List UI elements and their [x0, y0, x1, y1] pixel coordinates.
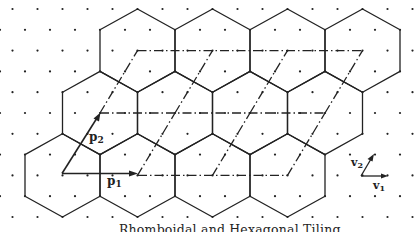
lattice-dot: [411, 216, 413, 218]
lattice-dot: [311, 174, 313, 176]
lattice-dot: [374, 112, 376, 114]
lattice-dot: [386, 8, 388, 10]
lattice-dot: [36, 216, 38, 218]
lattice-dot: [49, 70, 51, 72]
lattice-dot: [186, 216, 188, 218]
lattice-dot: [86, 8, 88, 10]
lattice-dot: [274, 112, 276, 114]
lattice-dot: [311, 50, 313, 52]
lattice-dot: [86, 174, 88, 176]
lattice-dot: [24, 29, 26, 31]
lattice-dot: [0, 112, 1, 114]
lattice-dot: [399, 154, 401, 156]
lattice-dot: [11, 133, 13, 135]
lattice-dot: [36, 174, 38, 176]
p2-label-subscript: 2: [97, 135, 103, 145]
lattice-dot: [124, 154, 126, 156]
lattice-dot: [24, 70, 26, 72]
lattice-dot: [386, 91, 388, 93]
lattice-dot: [349, 29, 351, 31]
lattice-dot: [199, 195, 201, 197]
lattice-dot: [49, 29, 51, 31]
lattice-dot: [336, 216, 338, 218]
lattice-dot: [111, 50, 113, 52]
lattice-dot: [24, 112, 26, 114]
lattice-dot: [86, 50, 88, 52]
figure-caption: Rhomboidal and Hexagonal Tiling: [119, 222, 341, 232]
lattice-dot: [11, 216, 13, 218]
lattice-dot: [0, 29, 1, 31]
lattice-dot: [36, 133, 38, 135]
lattice-dot: [374, 70, 376, 72]
tiling-diagram: p1 p2 v1 v2: [0, 0, 420, 232]
lattice-dot: [299, 70, 301, 72]
lattice-dot: [11, 50, 13, 52]
lattice-dot: [261, 8, 263, 10]
lattice-dot: [399, 195, 401, 197]
lattice-dot: [399, 112, 401, 114]
rhombus-edge-slanted: [250, 51, 288, 113]
lattice-dot: [86, 216, 88, 218]
lattice-dot: [186, 8, 188, 10]
lattice-dot: [74, 29, 76, 31]
p1-label: p1: [107, 174, 122, 189]
lattice-dot: [61, 174, 63, 176]
lattice-dot: [61, 50, 63, 52]
lattice-dot: [86, 91, 88, 93]
lattice-dot: [149, 70, 151, 72]
lattice-dot: [224, 29, 226, 31]
p2-vector: p2: [62, 113, 104, 174]
lattice-dot: [311, 216, 313, 218]
lattice-dot: [374, 154, 376, 156]
lattice-dot: [299, 29, 301, 31]
lattice-dot: [224, 70, 226, 72]
lattice-dot: [74, 70, 76, 72]
v1-label-subscript: 1: [379, 183, 385, 193]
rhombus-edge-slanted: [288, 113, 326, 175]
lattice-dot: [161, 8, 163, 10]
lattice-dot: [386, 133, 388, 135]
small-basis: v1 v2: [350, 154, 388, 193]
lattice-dot: [161, 91, 163, 93]
lattice-dot: [236, 8, 238, 10]
lattice-dot: [161, 216, 163, 218]
lattice-dot: [11, 174, 13, 176]
lattice-dot: [349, 195, 351, 197]
lattice-dot: [61, 8, 63, 10]
lattice-dot: [236, 216, 238, 218]
lattice-dot: [0, 70, 1, 72]
lattice-dot: [186, 133, 188, 135]
rhombus-edge-slanted: [213, 113, 251, 175]
lattice-dot: [261, 216, 263, 218]
p1-label-letter: p: [107, 174, 115, 188]
lattice-dot: [0, 154, 1, 156]
rhombus-edge-slanted: [138, 113, 176, 175]
lattice-dot: [274, 154, 276, 156]
lattice-dot: [411, 91, 413, 93]
lattice-dot: [36, 91, 38, 93]
lattice-dot: [299, 195, 301, 197]
lattice-dot: [36, 8, 38, 10]
v2-label: v2: [350, 156, 363, 170]
lattice-dot: [224, 195, 226, 197]
lattice-dot: [149, 195, 151, 197]
lattice-dot: [111, 8, 113, 10]
lattice-dot: [124, 195, 126, 197]
lattice-dot: [11, 8, 13, 10]
v2-label-subscript: 2: [357, 160, 363, 170]
p2-label-letter: p: [89, 130, 97, 144]
lattice-dot: [386, 216, 388, 218]
lattice-dot: [349, 112, 351, 114]
lattice-dot: [199, 154, 201, 156]
rhombus-edge-slanted: [175, 51, 213, 113]
lattice-dot: [311, 8, 313, 10]
p2-arrow-shaft: [62, 118, 97, 174]
p2-label: p2: [89, 130, 104, 145]
lattice-dot: [374, 29, 376, 31]
rhomboidal-tiling: [100, 51, 363, 176]
lattice-dot: [74, 112, 76, 114]
lattice-dot: [11, 91, 13, 93]
rhombus-edge-slanted: [325, 51, 363, 113]
lattice-dot: [49, 154, 51, 156]
lattice-dot: [111, 216, 113, 218]
